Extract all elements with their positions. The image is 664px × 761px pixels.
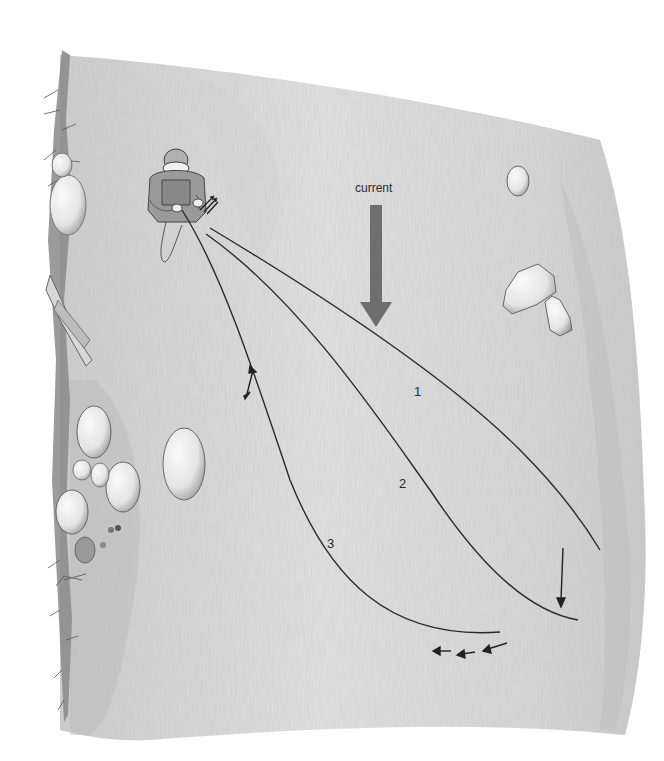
diagram-canvas: [0, 0, 664, 761]
current-label: current: [355, 181, 392, 195]
line-label-3: 3: [327, 536, 334, 551]
line-label-1: 1: [414, 384, 421, 399]
river-water: [60, 55, 646, 740]
rock-mid-left: [163, 428, 205, 500]
rock-upper-right-small: [507, 166, 529, 196]
line-label-2: 2: [399, 476, 406, 491]
fly-fishing-diagram: current 1 2 3: [0, 0, 664, 761]
